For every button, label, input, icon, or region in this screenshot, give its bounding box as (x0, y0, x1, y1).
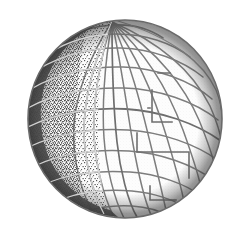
globe-body (15, 7, 235, 230)
globe-illustration (0, 0, 243, 232)
figure-root: Wireframe globe with graticule (0, 0, 243, 232)
